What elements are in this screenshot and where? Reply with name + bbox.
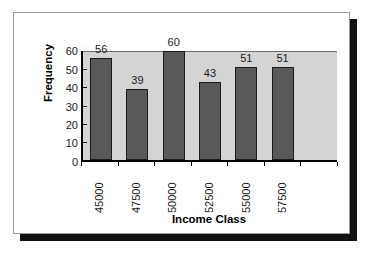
bar-value-label: 60: [168, 37, 180, 48]
bar[interactable]: [235, 67, 257, 160]
x-tick-mark: [337, 162, 338, 166]
y-tick-label: 40: [56, 82, 78, 93]
x-tick-label: 45000: [94, 182, 105, 213]
bar[interactable]: [126, 89, 148, 160]
bar-value-label: 51: [276, 53, 288, 64]
bar-value-label: 51: [240, 53, 252, 64]
x-axis-title: Income Class: [81, 213, 337, 225]
x-tick-mark: [154, 162, 155, 166]
bar-slot: 56: [83, 51, 119, 160]
x-tick-mark: [81, 162, 82, 166]
bar-slot: 60: [156, 51, 192, 160]
bar[interactable]: [272, 67, 294, 160]
x-tick-label: 55000: [241, 182, 252, 213]
x-tick-mark: [227, 162, 228, 166]
x-tick-mark: [300, 162, 301, 166]
bar-slot: 51: [228, 51, 264, 160]
y-axis-tick-labels: 60 50 40 30 20 10 0: [54, 51, 78, 162]
bar[interactable]: [163, 51, 185, 160]
x-tick-label: 50000: [167, 182, 178, 213]
x-tick-label: 57500: [277, 182, 288, 213]
plot-area: 563960435151: [81, 51, 337, 162]
x-tick-mark: [264, 162, 265, 166]
figure-root: Frequency 60 50 40 30 20 10 0 5639604351…: [0, 0, 367, 258]
x-tick-mark: [118, 162, 119, 166]
x-tick-mark: [191, 162, 192, 166]
chart-card: Frequency 60 50 40 30 20 10 0 5639604351…: [13, 12, 350, 234]
bar-value-label: 43: [204, 68, 216, 79]
bar-value-label: 39: [131, 75, 143, 86]
bar-slot: 43: [192, 51, 228, 160]
x-tick-label: 47500: [131, 182, 142, 213]
x-tick-label: 52500: [204, 182, 215, 213]
y-axis-title: Frequency: [42, 33, 54, 113]
bar[interactable]: [199, 82, 221, 160]
y-tick-label: 10: [56, 138, 78, 149]
bar[interactable]: [90, 58, 112, 160]
y-tick-label: 20: [56, 120, 78, 131]
x-axis-tick-labels: 450004750050000525005500057500: [81, 167, 337, 213]
y-tick-label: 50: [56, 64, 78, 75]
y-tick-label: 30: [56, 101, 78, 112]
bar-slot: 51: [264, 51, 300, 160]
y-tick-label: 0: [56, 157, 78, 168]
y-tick-label: 60: [56, 46, 78, 57]
bar-slot: 39: [119, 51, 155, 160]
bar-series: 563960435151: [83, 51, 337, 160]
bar-value-label: 56: [95, 44, 107, 55]
